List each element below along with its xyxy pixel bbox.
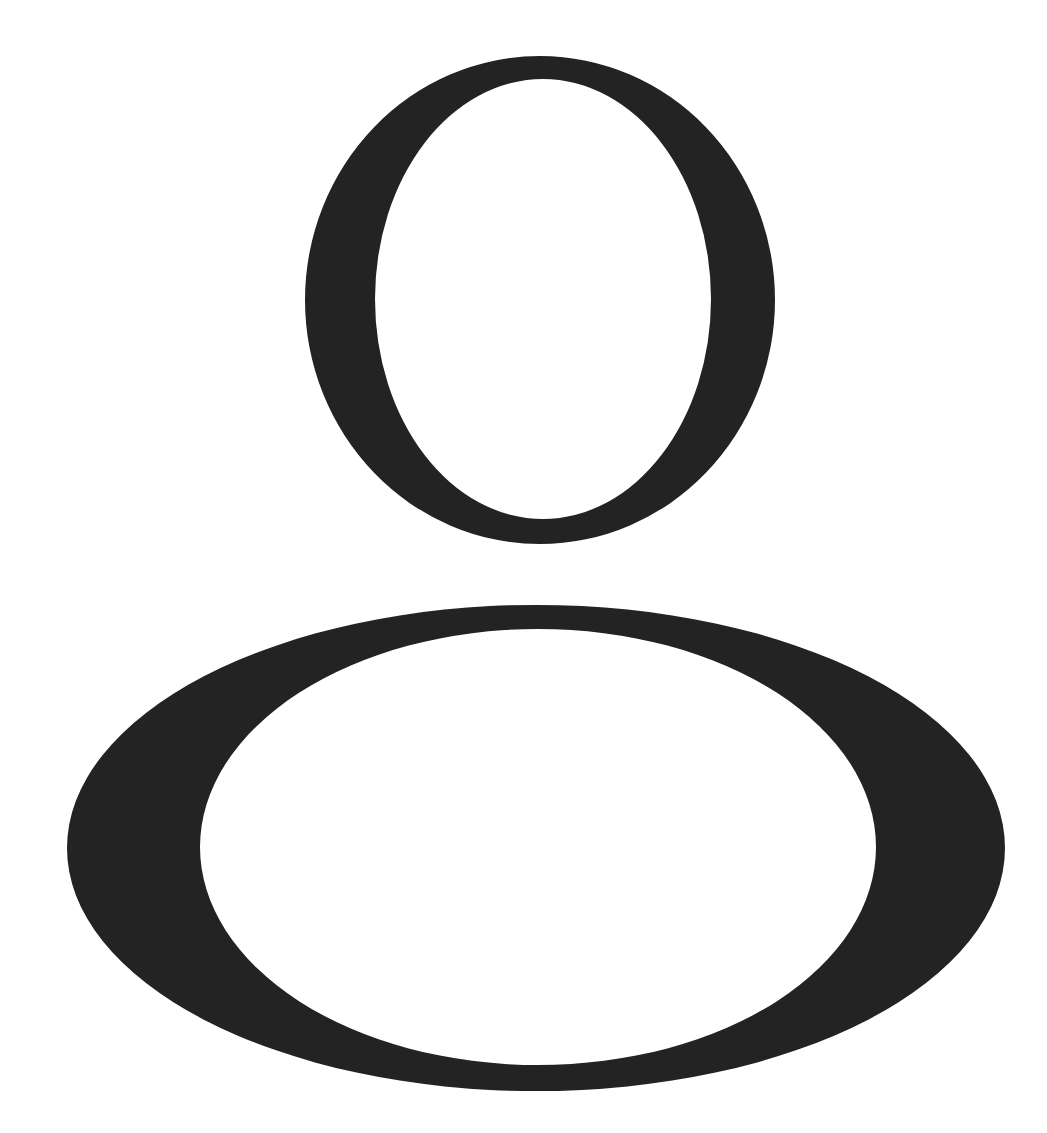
user-icon xyxy=(0,0,1047,1133)
user-avatar-figure: User avatar icon xyxy=(0,0,1047,1133)
